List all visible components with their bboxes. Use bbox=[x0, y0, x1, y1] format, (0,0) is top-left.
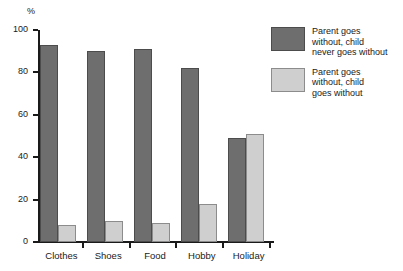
x-axis-tick bbox=[269, 243, 271, 248]
bar bbox=[134, 49, 152, 242]
bar bbox=[40, 45, 58, 242]
legend-item: Parent goes without, child never goes wi… bbox=[271, 26, 403, 58]
chart-legend: Parent goes without, child never goes wi… bbox=[271, 26, 403, 107]
bar bbox=[181, 68, 199, 242]
x-axis-tick bbox=[129, 243, 131, 248]
y-axis-tick-label: 60 bbox=[2, 109, 28, 119]
y-axis-tick-label: 20 bbox=[2, 194, 28, 204]
legend-label-line: never goes without bbox=[312, 47, 388, 58]
legend-label-line: without, child bbox=[312, 77, 364, 88]
bar bbox=[199, 204, 217, 242]
legend-label-line: Parent goes bbox=[312, 67, 364, 78]
bar bbox=[105, 221, 123, 242]
x-axis-tick bbox=[222, 243, 224, 248]
bar-chart: % 020406080100 ClothesShoesFoodHobbyHoli… bbox=[0, 0, 403, 271]
bar bbox=[246, 134, 264, 242]
bar bbox=[228, 138, 246, 242]
bar bbox=[87, 51, 105, 242]
plot-area bbox=[38, 30, 272, 242]
y-axis-unit-label: % bbox=[27, 6, 35, 16]
bar bbox=[58, 225, 76, 242]
x-axis-category-label: Holiday bbox=[215, 250, 282, 261]
legend-swatch-icon bbox=[271, 27, 305, 51]
y-axis-tick-label: 0 bbox=[2, 236, 28, 246]
x-axis-tick bbox=[175, 243, 177, 248]
y-axis-tick-label: 100 bbox=[2, 24, 28, 34]
legend-label-line: Parent goes bbox=[312, 26, 388, 37]
y-axis-tick-label: 40 bbox=[2, 151, 28, 161]
legend-label-line: goes without bbox=[312, 88, 364, 99]
y-axis-tick-label: 80 bbox=[2, 66, 28, 76]
legend-label: Parent goes without, child goes without bbox=[312, 67, 364, 99]
x-axis-tick bbox=[82, 243, 84, 248]
legend-label: Parent goes without, child never goes wi… bbox=[312, 26, 388, 58]
legend-item: Parent goes without, child goes without bbox=[271, 67, 403, 99]
bar bbox=[152, 223, 170, 242]
legend-label-line: without, child bbox=[312, 37, 388, 48]
legend-swatch-icon bbox=[271, 68, 305, 92]
